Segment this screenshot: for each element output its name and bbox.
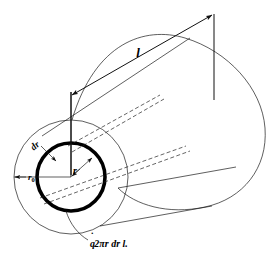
center-axis-lines <box>14 92 71 177</box>
caption-q-dot: ˙ <box>90 231 93 242</box>
thickness-label: dr <box>29 139 42 152</box>
outer-radius-label-subscript: 0 <box>32 176 35 183</box>
radius-label: r <box>73 165 77 176</box>
hidden-edge-upper-a <box>68 95 160 146</box>
outer-radius-dimension-r0: r0 <box>15 172 35 183</box>
cylinder-bottom-edge <box>100 206 212 226</box>
caption-text: q˙2πr dr l. <box>90 231 128 249</box>
caption-expression: 2πr dr l. <box>93 238 128 249</box>
cylinder-bottom-edge-secondary <box>118 167 236 188</box>
caption-leader-line <box>66 211 88 240</box>
hidden-edge-lower-b <box>44 151 190 204</box>
hidden-edge-lines <box>40 95 190 204</box>
figure-container: l r0 r dr q˙2πr dr l. <box>0 0 278 255</box>
cylinder-top-edge <box>42 38 190 136</box>
outer-radius-label: r0 <box>28 172 35 183</box>
length-dimension-line-left-arrow <box>72 56 140 95</box>
caption-group: q˙2πr dr l. <box>66 211 128 249</box>
hidden-edge-lower-a <box>40 146 186 198</box>
radius-dimension-r: r <box>72 158 92 176</box>
cylinder-annular-element-diagram: l r0 r dr q˙2πr dr l. <box>0 0 278 255</box>
length-label: l <box>136 45 140 60</box>
cylinder-body <box>42 34 265 226</box>
length-dimension-line-right-arrow <box>140 15 212 56</box>
